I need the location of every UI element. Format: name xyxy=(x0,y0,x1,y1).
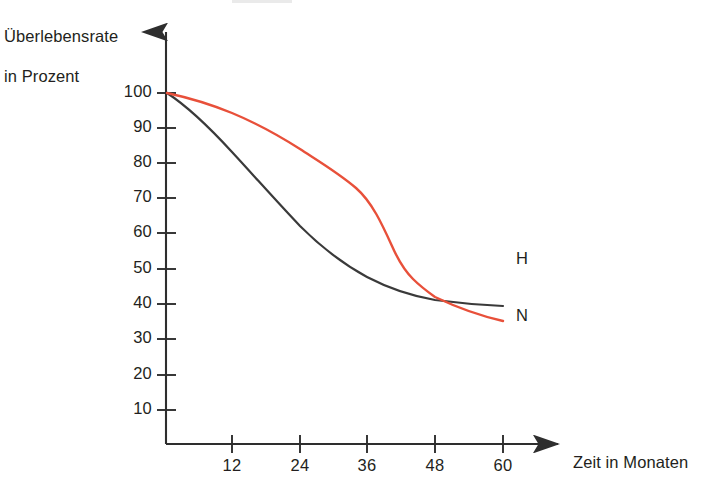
y-tick-label-20: 20 xyxy=(96,364,152,383)
x-tick-label-48: 48 xyxy=(409,456,461,475)
series-line-h xyxy=(167,93,503,306)
x-tick-label-12: 12 xyxy=(206,456,258,475)
y-tick-label-90: 90 xyxy=(96,117,152,136)
series-label-h: H xyxy=(516,249,528,268)
y-tick-label-10: 10 xyxy=(96,399,152,418)
y-tick-label-100: 100 xyxy=(96,82,152,101)
y-tick-label-60: 60 xyxy=(96,222,152,241)
y-tick-label-80: 80 xyxy=(96,152,152,171)
x-tick-label-24: 24 xyxy=(274,456,326,475)
y-tick-label-70: 70 xyxy=(96,187,152,206)
chart-canvas: Überlebensrate in Prozent Zeit in Monate… xyxy=(0,0,704,480)
x-tick-label-60: 60 xyxy=(477,456,529,475)
y-tick-label-40: 40 xyxy=(96,293,152,312)
series-label-n: N xyxy=(516,306,528,325)
y-tick-label-50: 50 xyxy=(96,258,152,277)
y-tick-label-30: 30 xyxy=(96,328,152,347)
x-tick-label-36: 36 xyxy=(341,456,393,475)
series-line-n xyxy=(167,93,503,321)
